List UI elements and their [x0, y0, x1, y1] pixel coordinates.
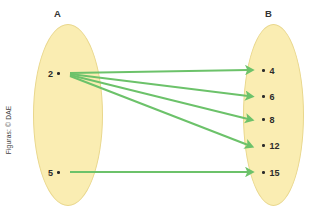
set-b-element-12-dot: [262, 144, 265, 147]
relation-diagram: Figuras: © DAE A B 2 5 4 6 8 12: [0, 0, 315, 216]
arrow-2-to-6: [70, 74, 248, 96]
set-b-element-4: 4: [262, 65, 275, 76]
set-a-element-5-value: 5: [48, 168, 53, 178]
arrow-2-to-8: [70, 75, 248, 119]
set-b-element-12: 12: [262, 140, 280, 151]
set-b-element-15-dot: [262, 171, 265, 174]
set-a-element-2-dot: [57, 72, 60, 75]
arrow-2-to-12: [70, 76, 248, 145]
set-a-element-2: 2: [48, 68, 60, 79]
mapping-arrows: [0, 0, 315, 216]
set-b-element-8: 8: [262, 114, 275, 125]
set-b-element-6-dot: [262, 95, 265, 98]
set-b-element-12-value: 12: [270, 141, 280, 151]
set-b-element-4-value: 4: [270, 66, 275, 76]
set-b-element-4-dot: [262, 69, 265, 72]
set-b-element-8-value: 8: [270, 115, 275, 125]
set-a-element-2-value: 2: [48, 69, 53, 79]
set-b-element-6-value: 6: [270, 92, 275, 102]
set-b-element-8-dot: [262, 118, 265, 121]
set-b-element-15: 15: [262, 167, 280, 178]
arrow-2-to-4: [70, 70, 248, 73]
set-a-element-5: 5: [48, 167, 60, 178]
set-b-element-6: 6: [262, 91, 275, 102]
set-a-element-5-dot: [57, 171, 60, 174]
set-b-element-15-value: 15: [270, 168, 280, 178]
